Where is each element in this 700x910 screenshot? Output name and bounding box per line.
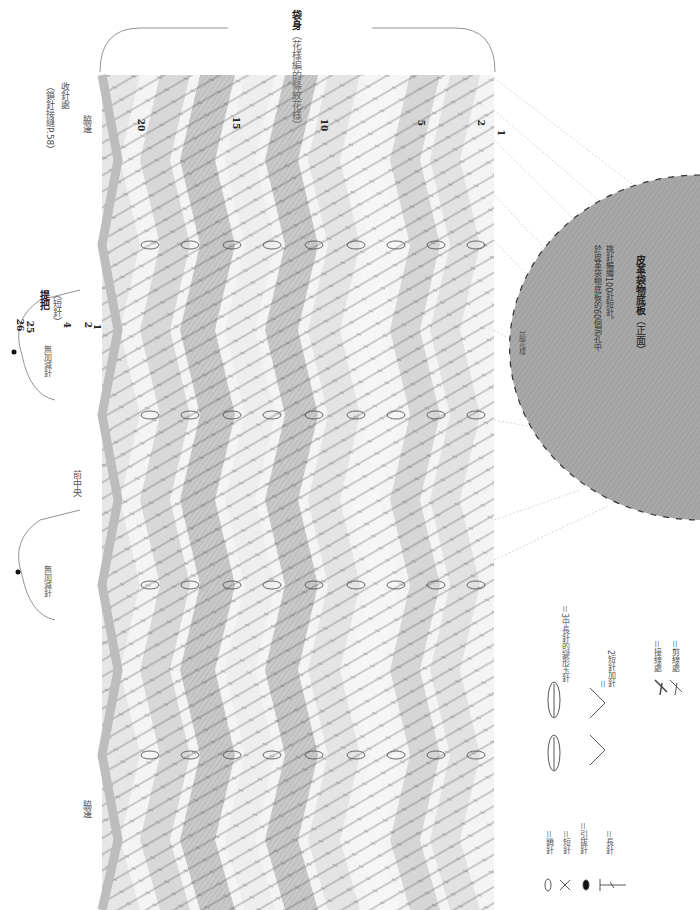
row-number-2: 2: [476, 120, 486, 126]
no-inc-dec-label-1: 無加減針: [42, 345, 51, 377]
body-title: 袋身（花樣編的條紋花樣）: [290, 10, 302, 130]
legend-join: ＝接線處: [652, 640, 661, 672]
row-number-15: 15: [231, 117, 241, 130]
legend-increase: 2短針加針: [606, 650, 615, 687]
row-number-5: 5: [416, 120, 426, 126]
handle-row-1: 1: [92, 324, 102, 330]
crochet-chart-drawing: [0, 0, 700, 910]
row-number-1: 1: [496, 130, 506, 136]
chart-body: [102, 75, 494, 910]
leather-base-disc: [510, 175, 700, 520]
row-number-20: 20: [136, 119, 146, 132]
legend-double: ＝長針: [604, 830, 613, 854]
legend-single: ＝短針: [561, 830, 570, 854]
legend-chain: ＝鎖針: [544, 830, 553, 854]
handle-subtitle: （短針）: [52, 290, 62, 326]
row-number-10: 10: [319, 119, 329, 132]
legend-slip: ＝引拔針: [578, 822, 587, 854]
finish-label: 收針處: [60, 82, 70, 109]
side-edge-label-top: 脇邊: [82, 115, 92, 133]
base-note-line1: 於皮革袋物底板的60個洞孔中: [592, 245, 601, 351]
no-inc-dec-label-2: 無加減針: [42, 565, 51, 597]
legend-symbols: [545, 680, 682, 891]
handle-title: 提把: [38, 290, 50, 310]
one-repeat-label: 1組花樣: [518, 330, 526, 355]
base-title: 皮革袋物底板（正面）: [634, 255, 646, 355]
handle-row-25: 25: [25, 321, 35, 334]
base-note-line2: 挑針編織100針短針。: [604, 245, 613, 324]
handle-row-4: 4: [62, 322, 72, 328]
legend-bobble: ＝3中長針的變形玉針: [560, 605, 569, 682]
side-edge-label-bottom: 脇邊: [82, 800, 92, 818]
finish-note: （鎖針接縫P.58）: [45, 82, 55, 154]
handle-row-26: 26: [15, 319, 25, 332]
legend-cut: ＝剪線處: [670, 640, 679, 672]
front-center-label: 前中央: [72, 470, 82, 497]
